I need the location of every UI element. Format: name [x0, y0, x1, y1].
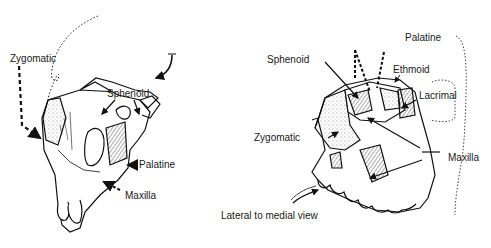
label-palatine-left: Palatine [139, 159, 175, 170]
label-lacrimal-right: Lacrimal [419, 90, 457, 101]
diagram-canvas: Zygomatic Sphenoid Palatine Maxilla Pala… [0, 0, 491, 248]
label-maxilla-left: Maxilla [125, 190, 156, 201]
caption-view-direction: Lateral to medial view [221, 210, 318, 221]
label-ethmoid-right: Ethmoid [393, 64, 430, 75]
label-sphenoid-right: Sphenoid [267, 54, 309, 65]
label-zygomatic-left: Zygomatic [10, 53, 56, 64]
label-palatine-right: Palatine [405, 32, 441, 43]
right-skull-view [291, 36, 466, 215]
label-zygomatic-right: Zygomatic [254, 132, 300, 143]
label-sphenoid-left: Sphenoid [107, 88, 149, 99]
label-maxilla-right: Maxilla [448, 152, 479, 163]
